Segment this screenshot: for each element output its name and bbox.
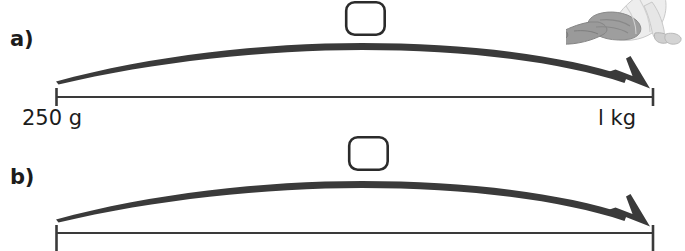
panel-b-arc-stroke bbox=[56, 181, 627, 223]
panel-b-answer-box[interactable] bbox=[349, 137, 388, 170]
person-hand-secondary bbox=[665, 33, 681, 44]
diagram-canvas bbox=[0, 0, 685, 251]
panel-a-right-axis-label: l kg bbox=[598, 108, 636, 129]
panel-a-left-axis-label: 250 g bbox=[22, 108, 82, 129]
panel-b-group bbox=[56, 137, 653, 251]
person-shoe bbox=[512, 31, 549, 47]
figure-root: a) b) 250 g l kg bbox=[0, 0, 685, 251]
panel-b-letter: b) bbox=[10, 167, 34, 188]
panel-a-letter: a) bbox=[10, 29, 33, 50]
panel-a-group bbox=[56, 2, 653, 106]
panel-b-arrowhead bbox=[608, 194, 650, 227]
panel-a-arc-stroke bbox=[56, 43, 627, 85]
person-shin bbox=[555, 22, 607, 44]
person-sock bbox=[532, 29, 568, 45]
panel-a-arrowhead bbox=[608, 56, 650, 89]
panel-a-answer-box[interactable] bbox=[346, 2, 385, 35]
person-sitting-illustration bbox=[512, 0, 681, 47]
